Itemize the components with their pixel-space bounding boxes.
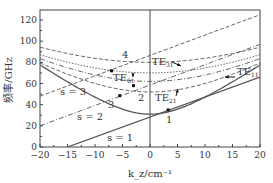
label-te31: TE31 xyxy=(152,56,174,68)
y-tick-label: 20 xyxy=(26,121,38,131)
y-tick-label: 60 xyxy=(26,79,38,89)
label-s3: s = 3 xyxy=(60,86,86,97)
x-tick-label: −10 xyxy=(86,150,105,160)
x-axis-label: k_z/cm⁻¹ xyxy=(128,168,172,180)
intersection-point xyxy=(132,84,135,87)
x-tick-label: −5 xyxy=(116,150,130,160)
y-tick-label: 100 xyxy=(20,36,37,46)
label-point-3: 3 xyxy=(108,99,114,110)
label-s2: s = 2 xyxy=(77,111,103,122)
dispersion-chart: −20−15−10−505101520020406080100120 s = 1… xyxy=(0,0,273,183)
x-tick-label: 5 xyxy=(175,150,181,160)
x-tick-label: 20 xyxy=(254,150,266,160)
label-te01: TE01 xyxy=(113,72,135,84)
intersection-point xyxy=(167,108,170,111)
y-tick-label: 0 xyxy=(31,142,37,152)
y-tick-label: 80 xyxy=(26,57,38,67)
labels: s = 1s = 2s = 31234TE31TE01TE21TE11 xyxy=(60,49,259,143)
y-tick-label: 40 xyxy=(26,100,38,110)
label-te21: TE21 xyxy=(155,92,177,104)
label-point-4: 4 xyxy=(122,49,128,60)
intersection-point xyxy=(118,94,121,97)
y-tick-label: 120 xyxy=(20,15,37,25)
x-tick-label: 0 xyxy=(147,150,153,160)
label-s1: s = 1 xyxy=(107,132,133,143)
label-point-1: 1 xyxy=(166,114,172,125)
axes: −20−15−10−505101520020406080100120 xyxy=(20,10,266,160)
y-axis-label: 频率/GHz xyxy=(2,57,14,102)
x-tick-label: 10 xyxy=(199,150,211,160)
label-point-2: 2 xyxy=(138,92,144,103)
x-tick-label: −15 xyxy=(58,150,77,160)
x-tick-label: 15 xyxy=(227,150,239,160)
